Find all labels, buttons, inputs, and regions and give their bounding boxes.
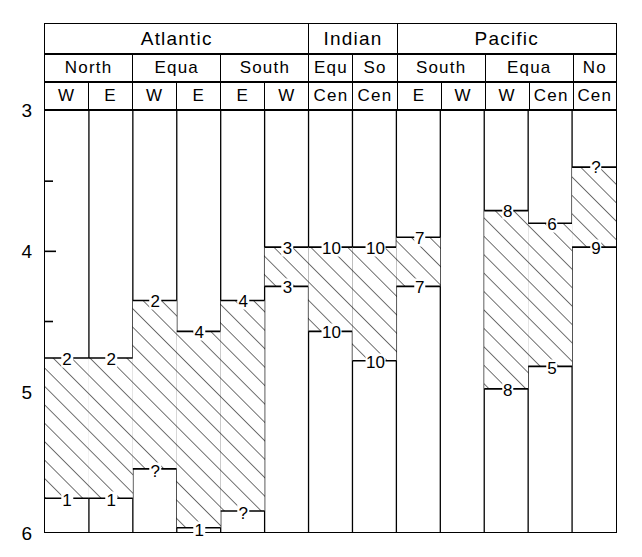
- ocean-header-row: AtlanticIndianPacific: [44, 23, 617, 54]
- stratigraphic-range-chart: 3456 AtlanticIndianPacific NorthEquaSout…: [0, 0, 642, 557]
- range-band-bottom-label-3: 1: [194, 521, 205, 538]
- range-band-2: [133, 300, 177, 468]
- range-band-top-label-2: 2: [149, 293, 160, 310]
- range-band-top-label-10: 6: [546, 215, 557, 232]
- y-axis: 3456: [0, 0, 44, 557]
- range-band-top-label-0: 2: [61, 351, 72, 368]
- range-band-top-label-11: ?: [590, 159, 601, 176]
- range-band-11: [572, 167, 616, 247]
- range-band-fill-7: [352, 247, 396, 361]
- sector-header-0: W: [44, 82, 88, 110]
- ocean-header-0: Atlantic: [44, 23, 308, 54]
- ocean-header-1: Indian: [308, 23, 396, 54]
- plot-svg: [45, 111, 616, 532]
- range-band-top-label-3: 4: [194, 324, 205, 341]
- range-band-top-label-4: 4: [238, 293, 249, 310]
- region-header-0: North: [44, 54, 132, 82]
- range-band-bottom-label-2: ?: [149, 462, 160, 479]
- range-band-7: [352, 247, 396, 361]
- range-band-bottom-label-8: 7: [414, 279, 425, 296]
- region-header-3: Equ: [308, 54, 352, 82]
- sector-header-8: E: [397, 82, 441, 110]
- range-band-bottom-label-11: 9: [590, 239, 601, 256]
- range-band-4: [221, 300, 265, 511]
- y-axis-tick-label-4: 4: [21, 242, 32, 261]
- sector-header-3: E: [176, 82, 220, 110]
- range-band-10: [528, 223, 572, 366]
- range-band-fill-9: [484, 211, 528, 389]
- ocean-header-2: Pacific: [397, 23, 617, 54]
- range-band-6: [309, 247, 353, 331]
- range-band-top-label-8: 7: [414, 229, 425, 246]
- range-band-fill-2: [133, 300, 177, 468]
- sector-header-2: W: [132, 82, 176, 110]
- range-band-top-label-5: 3: [282, 239, 293, 256]
- sector-header-6: Cen: [308, 82, 352, 110]
- sector-header-1: E: [88, 82, 132, 110]
- range-band-fill-1: [89, 358, 133, 498]
- y-axis-tick-label-6: 6: [21, 524, 32, 543]
- range-band-top-label-9: 8: [502, 203, 513, 220]
- range-band-bottom-label-7: 10: [365, 353, 386, 370]
- sector-header-4: E: [220, 82, 264, 110]
- range-band-top-label-6: 10: [321, 239, 342, 256]
- sector-header-10: W: [485, 82, 529, 110]
- region-header-2: South: [220, 54, 308, 82]
- range-band-bottom-label-0: 1: [61, 492, 72, 509]
- range-band-bottom-label-9: 8: [502, 382, 513, 399]
- range-band-fill-6: [309, 247, 353, 331]
- region-header-row: NorthEquaSouthEquSoSouthEquaNo: [44, 54, 617, 82]
- range-band-top-label-7: 10: [365, 239, 386, 256]
- range-band-fill-3: [177, 331, 221, 527]
- y-axis-tick-label-3: 3: [21, 101, 32, 120]
- range-band-fill-11: [572, 167, 616, 247]
- range-band-bottom-label-6: 10: [321, 324, 342, 341]
- range-band-fill-4: [221, 300, 265, 511]
- y-axis-tick-label-5: 5: [21, 383, 32, 402]
- sector-header-5: W: [264, 82, 308, 110]
- plot-area: 21212?414?3310101010778865?9: [44, 110, 617, 533]
- range-band-bottom-label-10: 5: [546, 359, 557, 376]
- region-header-1: Equa: [132, 54, 220, 82]
- range-band-bottom-label-5: 3: [282, 279, 293, 296]
- sector-header-7: Cen: [352, 82, 396, 110]
- region-header-6: Equa: [485, 54, 573, 82]
- range-band-fill-10: [528, 223, 572, 366]
- range-band-1: [89, 358, 133, 498]
- range-band-9: [484, 211, 528, 389]
- sector-header-9: W: [441, 82, 485, 110]
- region-header-4: So: [352, 54, 396, 82]
- range-band-0: [45, 358, 89, 498]
- sector-header-12: Cen: [573, 82, 617, 110]
- range-band-bottom-label-4: ?: [238, 504, 249, 521]
- sector-header-row: WEWEEWCenCenEWWCenCen: [44, 82, 617, 110]
- range-band-bottom-label-1: 1: [105, 492, 116, 509]
- sector-header-11: Cen: [529, 82, 573, 110]
- region-header-7: No: [573, 54, 617, 82]
- region-header-5: South: [397, 54, 485, 82]
- range-band-fill-0: [45, 358, 89, 498]
- range-band-3: [177, 331, 221, 527]
- range-band-top-label-1: 2: [105, 351, 116, 368]
